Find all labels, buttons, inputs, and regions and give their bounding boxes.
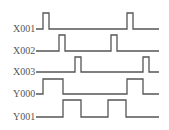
signal-row-y000: Y000 xyxy=(13,79,159,99)
timing-diagram: X001X002X003Y000Y001 xyxy=(0,0,169,130)
signal-row-x002: X002 xyxy=(13,35,159,56)
signal-label: X003 xyxy=(13,66,35,77)
waveform xyxy=(36,57,159,72)
signal-row-x001: X001 xyxy=(13,13,159,34)
signal-group: X001X002X003Y000Y001 xyxy=(13,13,159,122)
signal-row-y001: Y001 xyxy=(13,100,159,122)
waveform xyxy=(36,79,159,94)
waveform xyxy=(36,100,159,117)
signal-label: X001 xyxy=(13,23,35,34)
waveform xyxy=(36,35,159,51)
signal-label: Y001 xyxy=(13,111,35,122)
waveform xyxy=(36,13,159,29)
signal-row-x003: X003 xyxy=(13,57,159,77)
signal-label: X002 xyxy=(13,45,35,56)
signal-label: Y000 xyxy=(13,88,35,99)
